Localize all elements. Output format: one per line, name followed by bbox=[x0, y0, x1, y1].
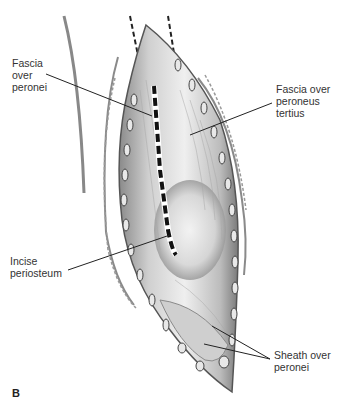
label-sheath-over-peronei: Sheath over peronei bbox=[274, 349, 331, 373]
panel-letter: B bbox=[12, 387, 20, 399]
label-fascia-over-peroneus-tertius: Fascia over peroneus tertius bbox=[276, 83, 330, 119]
label-fascia-over-peronei: Fascia over peronei bbox=[12, 57, 47, 93]
skin-edge-line bbox=[64, 16, 84, 193]
surgical-illustration: Fascia over peronei Fascia over peroneus… bbox=[0, 0, 353, 411]
label-incise-periosteum: Incise periosteum bbox=[10, 255, 62, 279]
